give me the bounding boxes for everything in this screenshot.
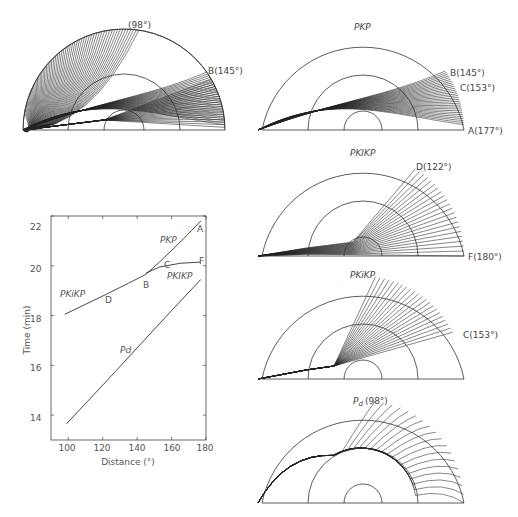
ray-path: [258, 448, 461, 503]
ray-path: [258, 303, 430, 379]
travel-time-chart: Time (min) Distance (°) 22 20 18 16 14 1…: [22, 216, 214, 467]
inner-core-arc: [344, 360, 382, 379]
ray-path: [258, 439, 442, 503]
label-c153: C(153°): [460, 83, 495, 93]
ray-path: [258, 294, 419, 379]
figure-canvas: (98°) B(145°) PKP B(145°) C(153°) A(177°…: [0, 0, 518, 517]
ray-path: [258, 285, 402, 379]
plot-frame: [51, 216, 206, 440]
panel-title-pkikp: PKIKP: [350, 148, 376, 158]
annot-F: F: [199, 256, 204, 266]
series-pd: [67, 279, 201, 423]
label-b145: B(145°): [450, 68, 485, 78]
annot-D: D: [105, 295, 112, 305]
panel-pkikp-reflected: PKiKP C(153°): [258, 270, 498, 379]
inner-core-arc: [344, 111, 382, 130]
panel-title-pkikp-reflected: PKiKP: [350, 270, 376, 280]
outer-core-arc: [308, 448, 418, 503]
panel-title-pd: Pd(98°): [353, 396, 388, 408]
ray-path: [258, 297, 423, 379]
annot-A: A: [197, 224, 204, 234]
series-pkp: [146, 221, 201, 275]
panel-pkp: PKP B(145°) C(153°) A(177°): [258, 22, 503, 136]
panel-pkikp: PKIKP D(122°) F(180°): [258, 148, 502, 262]
annot-PKP: PKP: [160, 235, 177, 245]
panel-all-rays: (98°) B(145°): [23, 20, 243, 231]
label-d122: D(122°): [416, 162, 452, 172]
panel-pd: Pd(98°): [258, 396, 464, 503]
annot-B: B: [143, 280, 149, 290]
ray-path: [258, 291, 415, 379]
ray-path: [258, 280, 389, 379]
label-98: (98°): [128, 20, 151, 30]
ray-path: [258, 403, 384, 503]
label-b145: B(145°): [208, 66, 243, 76]
ray-path: [258, 448, 464, 503]
ray-path: [258, 278, 380, 379]
annot-C: C: [164, 260, 170, 270]
xtick-160: 160: [163, 443, 180, 453]
label-c153: C(153°): [463, 330, 498, 340]
xtick-100: 100: [58, 443, 75, 453]
xtick-120: 120: [93, 443, 110, 453]
ray-path: [258, 200, 447, 256]
ray-path: [258, 324, 448, 379]
x-axis-label: Distance (°): [101, 457, 155, 467]
xtick-180: 180: [196, 443, 213, 453]
ray-path: [258, 411, 408, 503]
ray-path: [258, 448, 455, 503]
ytick-16: 16: [30, 363, 42, 373]
annot-PKIKP: PKIKP: [167, 271, 193, 281]
ray-path: [258, 188, 438, 256]
ray-path: [258, 426, 430, 503]
ray-path: [258, 332, 453, 379]
ray-path: [258, 277, 375, 379]
label-a177: A(177°): [468, 126, 503, 136]
ray-path: [258, 196, 444, 256]
ytick-22: 22: [30, 222, 41, 232]
ytick-18: 18: [30, 314, 42, 324]
ray-path: [258, 448, 464, 503]
ray-path: [258, 405, 392, 503]
annot-PKiKP: PKiKP: [60, 289, 86, 299]
ray-path: [258, 448, 463, 503]
ray-path: [258, 448, 458, 503]
ray-path: [258, 281, 394, 379]
xtick-140: 140: [128, 443, 145, 453]
ytick-14: 14: [30, 413, 42, 423]
ray-path: [258, 401, 375, 503]
label-f180: F(180°): [468, 252, 502, 262]
annot-Pd: Pd: [120, 345, 131, 355]
ytick-20: 20: [30, 264, 42, 274]
inner-core-arc: [344, 484, 382, 503]
panel-title-pkp: PKP: [354, 22, 371, 32]
